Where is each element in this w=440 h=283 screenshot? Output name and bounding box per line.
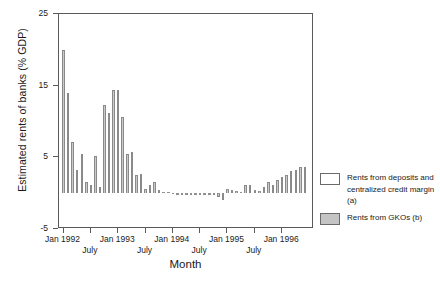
bar [235,191,238,193]
x-tick-label-major: Jan 1996 [264,234,299,244]
x-tick-mark [254,228,255,233]
bar [254,190,257,193]
bar [208,193,211,195]
bar [144,189,147,193]
x-axis-title: Month [58,258,313,270]
bar [231,190,234,194]
bar [258,191,261,193]
x-tick-label-major: Jan 1994 [154,234,189,244]
bar [162,192,165,193]
x-tick-label-major: Jan 1995 [209,234,244,244]
bar [67,93,70,193]
bar [126,154,129,193]
bar [199,193,202,195]
x-tick-label-minor: July [82,245,97,255]
x-tick-mark [281,228,282,233]
legend-swatch-deposits-icon [320,173,340,185]
y-tick-label: 5 [8,151,48,161]
x-tick-label-major: Jan 1993 [100,234,135,244]
legend-swatch-gkos-icon [320,213,340,225]
bar [217,193,220,197]
bar [94,156,97,193]
bar [153,182,156,193]
bar [172,193,175,194]
bar [290,171,293,193]
x-tick-label-major: Jan 1992 [45,234,80,244]
y-axis-title: Estimated rents of banks (% GDP) [16,3,28,218]
bar [295,170,298,194]
chart-legend: Rents from deposits and centralized cred… [320,172,440,230]
bar [285,175,288,194]
bar [240,192,243,193]
y-tick-mark [53,85,58,86]
bar [272,185,275,194]
y-tick-label: -5 [8,223,48,233]
bar [185,193,188,195]
bar [222,193,225,199]
bar [112,90,115,193]
y-tick-mark [53,156,58,157]
bar [181,193,184,195]
bar [149,185,152,194]
bar [213,193,216,195]
bar [85,182,88,193]
x-tick-mark [226,228,227,233]
bar [244,185,247,194]
x-tick-label-minor: July [246,245,261,255]
legend-item-gkos: Rents from GKOs (b) [320,212,440,225]
bar [117,90,120,193]
bar [203,193,206,195]
chart-figure: Estimated rents of banks (% GDP) 25155-5… [0,0,440,283]
bar [140,174,143,193]
bar [276,180,279,194]
bar [267,182,270,193]
y-tick-label: 15 [8,80,48,90]
bar [158,190,161,194]
bar [263,187,266,193]
x-tick-label-minor: July [192,245,207,255]
bar [81,154,84,193]
bar [226,189,229,193]
bar [108,113,111,193]
y-tick-mark [53,13,58,14]
x-tick-mark [117,228,118,233]
bar [62,50,65,193]
bar [194,193,197,195]
bar [190,193,193,195]
legend-label-deposits: Rents from deposits and centralized cred… [347,172,440,207]
bar [135,175,138,194]
x-tick-mark [90,228,91,233]
legend-label-gkos: Rents from GKOs (b) [347,212,422,224]
bar [121,117,124,193]
x-tick-label-minor: July [137,245,152,255]
legend-item-deposits: Rents from deposits and centralized cred… [320,172,440,207]
bar [71,142,74,194]
x-tick-mark [199,228,200,233]
bar [90,185,93,193]
bar [76,170,79,194]
bar [249,185,252,193]
bar [176,193,179,195]
bar [103,105,106,193]
bar-series-container [59,14,312,227]
y-tick-label: 25 [8,8,48,18]
x-tick-mark [63,228,64,233]
bar [281,177,284,193]
bar [167,192,170,193]
bar [99,187,102,193]
bar [304,167,307,193]
plot-area [58,13,313,228]
bar [131,152,134,193]
y-tick-mark [53,228,58,229]
x-tick-mark [172,228,173,233]
bar [299,167,302,193]
x-tick-mark [145,228,146,233]
